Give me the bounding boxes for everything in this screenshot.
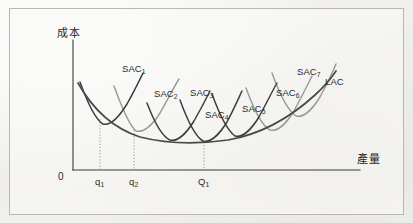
curve-sac2 — [114, 79, 179, 131]
curve-sac1 — [80, 73, 143, 124]
curve-label-lac: LAC — [325, 77, 344, 87]
curve-label-sac7: SAC7 — [297, 67, 321, 77]
curve-label-sac5-text: SAC — [242, 103, 262, 114]
curve-label-sac3-text: SAC — [190, 87, 210, 98]
chart-plot-area: .ax{stroke:#3a3a3a;stroke-width:1.1;fill… — [0, 0, 413, 223]
curve-label-sac4-text: SAC — [205, 109, 225, 120]
curve-label-sac3: SAC3 — [190, 88, 214, 98]
curve-label-sac4: SAC4 — [205, 110, 229, 120]
tick-label-Q1: Q1 — [198, 177, 209, 187]
y-axis-title: 成本 — [57, 28, 80, 39]
curve-label-sac2-sub: 2 — [174, 93, 178, 100]
curve-label-sac4-sub: 4 — [225, 114, 229, 121]
curve-label-sac5: SAC5 — [242, 104, 266, 114]
curve-label-sac1: SAC1 — [122, 64, 146, 74]
tick-label-Q1-sub: 1 — [206, 181, 210, 188]
tick-label-q1: q1 — [95, 177, 104, 187]
tick-label-q2-sub: 2 — [134, 181, 138, 188]
tick-label-Q1-text: Q — [198, 176, 206, 187]
curve-label-sac1-text: SAC — [122, 63, 142, 74]
curve-label-sac7-sub: 7 — [317, 71, 321, 78]
curve-label-sac5-sub: 5 — [262, 108, 266, 115]
curve-label-sac6: SAC6 — [276, 88, 300, 98]
origin-label: 0 — [58, 172, 64, 182]
curve-label-lac-text: LAC — [325, 76, 344, 87]
curve-label-sac1-sub: 1 — [142, 68, 146, 75]
curve-label-sac2: SAC2 — [154, 89, 178, 99]
curve-label-sac6-sub: 6 — [296, 92, 300, 99]
curve-label-sac2-text: SAC — [154, 88, 174, 99]
tick-label-q2: q2 — [129, 177, 138, 187]
tick-label-q1-sub: 1 — [100, 181, 104, 188]
curve-lac — [78, 71, 336, 143]
figure-container: .ax{stroke:#3a3a3a;stroke-width:1.1;fill… — [0, 0, 413, 223]
curve-label-sac3-sub: 3 — [210, 92, 214, 99]
x-axis-title: 產量 — [357, 154, 380, 165]
curve-label-sac6-text: SAC — [276, 87, 296, 98]
curve-label-sac7-text: SAC — [297, 66, 317, 77]
